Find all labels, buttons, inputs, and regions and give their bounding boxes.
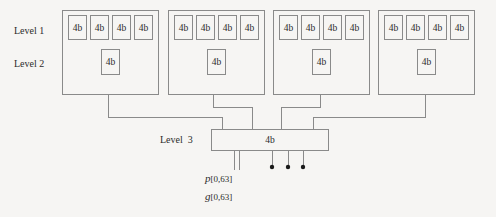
group-4-level2-cell-1[interactable]: 4b	[417, 49, 436, 75]
level-2-label: Level 2	[14, 58, 44, 69]
group-1-bus	[108, 95, 222, 129]
out-wire-2-terminal-dot	[286, 165, 290, 169]
level-3-label: Level 3	[160, 134, 193, 145]
group-1-level2-cell-1[interactable]: 4b	[101, 49, 120, 75]
out-wire-3-terminal-dot	[301, 165, 305, 169]
group-4-level1-cell-3[interactable]: 4b	[428, 15, 447, 40]
group-3-bus	[281, 95, 320, 129]
group-4-bus	[313, 95, 425, 129]
group-2-level1-cell-2[interactable]: 4b	[196, 15, 215, 40]
level-1-label: Level 1	[14, 25, 44, 36]
level-3-block[interactable]: 4b	[211, 129, 329, 151]
group-2-level1-cell-3[interactable]: 4b	[218, 15, 237, 40]
group-2-level2-cell-1[interactable]: 4b	[207, 49, 226, 75]
signal-p: p[0,63]	[205, 172, 232, 184]
group-3-level1-cell-2[interactable]: 4b	[301, 15, 320, 40]
group-3-level1-cell-3[interactable]: 4b	[323, 15, 342, 40]
group-3-level2-cell-1[interactable]: 4b	[312, 49, 331, 75]
group-3-level1-cell-4[interactable]: 4b	[345, 15, 364, 40]
group-1-level1-cell-3[interactable]: 4b	[112, 15, 131, 40]
group-2-level1-cell-4[interactable]: 4b	[240, 15, 259, 40]
signal-p-subscript: [0,63]	[211, 174, 233, 184]
group-2-bus	[213, 95, 252, 129]
group-4-level1-cell-1[interactable]: 4b	[384, 15, 403, 40]
diagram-canvas: 4b4b4b4b4b4b4b4b4b4b4b4b4b4b4b4b4b4b4b4b…	[0, 0, 496, 217]
group-1-level1-cell-1[interactable]: 4b	[68, 15, 87, 40]
group-2-level1-cell-1[interactable]: 4b	[174, 15, 193, 40]
group-1-level1-cell-2[interactable]: 4b	[90, 15, 109, 40]
group-3-level1-cell-1[interactable]: 4b	[279, 15, 298, 40]
group-1-level1-cell-4[interactable]: 4b	[134, 15, 153, 40]
signal-g: g[0,63]	[205, 190, 232, 202]
group-4-level1-cell-2[interactable]: 4b	[406, 15, 425, 40]
signal-g-subscript: [0,63]	[211, 192, 233, 202]
group-4-level1-cell-4[interactable]: 4b	[450, 15, 469, 40]
out-wire-1-terminal-dot	[270, 165, 274, 169]
